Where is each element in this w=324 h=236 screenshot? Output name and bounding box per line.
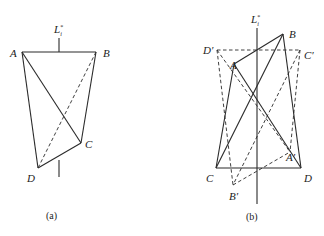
vertex-label-a-C: C xyxy=(85,138,93,150)
caption-b: (b) xyxy=(246,211,258,223)
axis-label-a: L*i xyxy=(53,23,63,37)
edge-b-CpBp xyxy=(233,50,300,185)
vertex-label-a-B: B xyxy=(103,47,110,59)
edge-a-AC xyxy=(22,52,81,143)
axis-label-b: L*i xyxy=(250,13,260,27)
vertex-label-b-Aprime: A′ xyxy=(285,151,296,163)
vertex-label-b-B: B xyxy=(289,28,296,40)
vertex-label-b-Bprime: B′ xyxy=(229,190,239,202)
edge-b-AC xyxy=(216,64,234,168)
caption-a: (a) xyxy=(46,210,57,222)
figure-canvas: L*i A B C D (a) L*i B D′ C′ A A′ C D B′ … xyxy=(0,0,324,236)
vertex-label-a-D: D xyxy=(26,172,35,184)
vertex-label-b-Dprime: D′ xyxy=(202,44,214,56)
edge-a-AD xyxy=(22,52,38,168)
vertex-label-b-C: C xyxy=(206,172,214,184)
vertex-label-b-Cprime: C′ xyxy=(304,49,314,61)
vertex-label-b-D: D xyxy=(303,172,312,184)
panel-b: L*i B D′ C′ A A′ C D B′ (b) xyxy=(202,13,314,223)
vertex-label-a-A: A xyxy=(9,47,17,59)
edge-a-BC xyxy=(81,52,96,143)
panel-a: L*i A B C D (a) xyxy=(9,23,110,222)
vertex-label-b-A: A xyxy=(229,59,237,71)
edge-b-BD xyxy=(283,34,301,168)
